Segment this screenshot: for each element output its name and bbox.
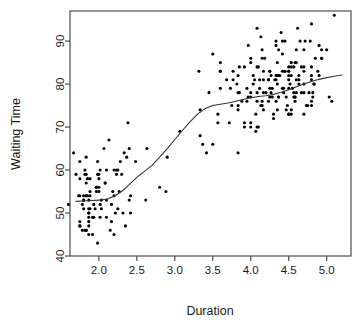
data-point <box>211 52 214 55</box>
data-point <box>97 177 100 180</box>
data-point <box>129 211 132 214</box>
data-point <box>86 194 89 197</box>
data-point <box>243 126 246 129</box>
data-point <box>287 78 290 81</box>
figure-background <box>0 0 364 325</box>
data-point <box>116 168 119 171</box>
data-point <box>258 87 261 90</box>
data-point <box>219 70 222 73</box>
data-point <box>249 126 252 129</box>
data-point <box>245 87 248 90</box>
data-point <box>276 61 279 64</box>
data-point <box>274 78 277 81</box>
data-point <box>310 100 313 103</box>
data-point <box>134 160 137 163</box>
data-point <box>197 70 200 73</box>
data-point <box>87 233 90 236</box>
data-point <box>237 104 240 107</box>
data-point <box>290 74 293 77</box>
data-point <box>230 104 233 107</box>
data-point <box>249 121 252 124</box>
data-point <box>296 27 299 30</box>
data-point <box>285 108 288 111</box>
data-point <box>87 216 90 219</box>
data-point <box>237 91 240 94</box>
data-point <box>267 100 270 103</box>
data-point <box>107 138 110 141</box>
data-point <box>287 70 290 73</box>
data-point <box>302 65 305 68</box>
data-point <box>225 78 228 81</box>
data-point <box>110 220 113 223</box>
data-point <box>104 181 107 184</box>
data-point <box>255 100 258 103</box>
data-point <box>271 87 274 90</box>
data-point <box>269 91 272 94</box>
data-point <box>87 220 90 223</box>
data-point <box>114 211 117 214</box>
data-point <box>267 78 270 81</box>
data-point <box>261 48 264 51</box>
data-point <box>333 14 336 17</box>
data-point <box>277 48 280 51</box>
data-point <box>121 211 124 214</box>
data-point <box>302 70 305 73</box>
data-point <box>128 147 131 150</box>
data-point <box>145 147 148 150</box>
data-point <box>258 78 261 81</box>
data-point <box>325 48 328 51</box>
y-tick-label: 70 <box>54 121 66 134</box>
x-tick-label: 2.5 <box>129 264 145 276</box>
data-point <box>290 65 293 68</box>
data-point <box>307 91 310 94</box>
y-tick-label: 40 <box>54 250 66 263</box>
x-tick-label: 2.0 <box>91 264 107 276</box>
data-point <box>216 121 219 124</box>
x-tick-label: 3.5 <box>205 264 221 276</box>
data-point <box>262 70 265 73</box>
data-point <box>120 173 123 176</box>
data-point <box>274 44 277 47</box>
data-point <box>99 203 102 206</box>
data-point <box>111 190 114 193</box>
data-point <box>261 104 264 107</box>
data-point <box>280 31 283 34</box>
y-tick-label: 50 <box>54 207 66 220</box>
data-point <box>304 40 307 43</box>
data-point <box>126 121 129 124</box>
data-point <box>97 190 100 193</box>
data-point <box>97 186 100 189</box>
data-point <box>99 168 102 171</box>
data-point <box>109 229 112 232</box>
data-point <box>164 190 167 193</box>
data-point <box>316 70 319 73</box>
data-point <box>269 74 272 77</box>
data-point <box>228 121 231 124</box>
data-point <box>205 151 208 154</box>
data-point <box>87 224 90 227</box>
data-point <box>297 74 300 77</box>
data-point <box>166 156 169 159</box>
data-point <box>310 104 313 107</box>
data-point <box>235 83 238 86</box>
data-point <box>102 147 105 150</box>
y-axis-title: Waiting Time <box>9 98 23 170</box>
data-point <box>285 95 288 98</box>
data-point <box>207 91 210 94</box>
data-point <box>216 113 219 116</box>
scatter-plot-figure: 2.02.53.03.54.04.55.0 405060708090 Durat… <box>0 0 364 325</box>
y-tick-label: 90 <box>54 35 66 48</box>
data-point <box>254 113 257 116</box>
data-point <box>243 121 246 124</box>
data-point <box>283 70 286 73</box>
x-axis-title: Duration <box>186 304 233 318</box>
data-point <box>83 229 86 232</box>
data-point <box>302 113 305 116</box>
data-point <box>293 61 296 64</box>
data-point <box>115 173 118 176</box>
data-point <box>277 74 280 77</box>
data-point <box>249 91 252 94</box>
data-point <box>276 83 279 86</box>
data-point <box>116 207 119 210</box>
data-point <box>254 130 257 133</box>
